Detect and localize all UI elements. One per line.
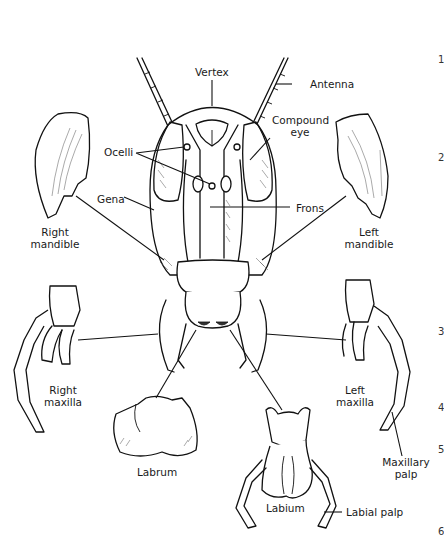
label-compound-eye-line2: eye xyxy=(272,126,328,138)
label-left-maxilla-line2: maxilla xyxy=(332,396,378,408)
margin-number-6: 6 xyxy=(438,526,444,536)
label-maxillary-palp: Maxillary palp xyxy=(378,456,434,480)
label-right-maxilla-line2: maxilla xyxy=(40,396,86,408)
label-right-maxilla: Right maxilla xyxy=(40,384,86,408)
label-left-maxilla-line1: Left xyxy=(332,384,378,396)
label-antenna: Antenna xyxy=(310,78,354,90)
label-ocelli: Ocelli xyxy=(104,146,133,158)
label-compound-eye-line1: Compound xyxy=(272,114,328,126)
left-mandible-drawing xyxy=(336,114,388,218)
margin-number-4: 4 xyxy=(438,402,444,413)
label-left-mandible-line1: Left xyxy=(342,226,396,238)
label-right-mandible-line1: Right xyxy=(28,226,82,238)
label-maxillary-palp-line2: palp xyxy=(378,468,434,480)
label-left-mandible-line2: mandible xyxy=(342,238,396,250)
labrum-drawing xyxy=(114,396,197,456)
insect-head-diagram: Vertex Antenna Compound eye Ocelli Gena … xyxy=(0,0,444,536)
margin-number-2: 2 xyxy=(438,152,444,163)
head-capsule-drawing xyxy=(150,108,276,373)
label-vertex: Vertex xyxy=(195,66,229,78)
label-right-mandible-line2: mandible xyxy=(28,238,82,250)
right-maxilla-drawing xyxy=(14,286,80,432)
label-left-maxilla: Left maxilla xyxy=(332,384,378,408)
label-labrum: Labrum xyxy=(137,466,177,478)
label-compound-eye: Compound eye xyxy=(272,114,328,138)
label-labium: Labium xyxy=(266,502,305,514)
margin-number-1: 1 xyxy=(438,54,444,65)
margin-number-3: 3 xyxy=(438,326,444,337)
label-gena: Gena xyxy=(97,193,125,205)
label-maxillary-palp-line1: Maxillary xyxy=(378,456,434,468)
label-labial-palp: Labial palp xyxy=(346,506,403,518)
label-frons: Frons xyxy=(296,202,324,214)
label-right-maxilla-line1: Right xyxy=(40,384,86,396)
margin-number-5: 5 xyxy=(438,444,444,455)
right-mandible-drawing xyxy=(35,113,89,218)
label-left-mandible: Left mandible xyxy=(342,226,396,250)
label-right-mandible: Right mandible xyxy=(28,226,82,250)
